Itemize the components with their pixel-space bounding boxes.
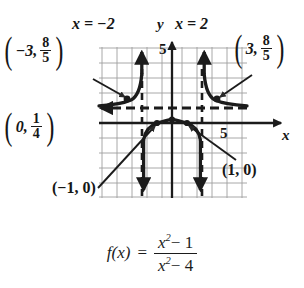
point-x-value: 0, — [15, 119, 29, 135]
formula-equals: = — [130, 243, 154, 263]
point-y-fraction: 1 4 — [29, 112, 44, 142]
point-marker-x-intercept-left — [154, 120, 160, 126]
point-marker-x-intercept-right — [184, 120, 190, 126]
point-x-value: −3, — [15, 43, 39, 59]
function-formula: f(x) = x2− 1 x2− 4 — [0, 232, 304, 274]
formula-numerator: x2− 1 — [154, 232, 197, 253]
paren-close: ) — [46, 112, 54, 142]
paren-close: ) — [56, 36, 64, 66]
point-label-y-intercept: ( 0, 1 4 ) — [2, 112, 56, 142]
point-label-x-intercept-right: (1, 0) — [222, 162, 257, 178]
point-marker-y-intercept — [169, 116, 175, 122]
formula-function-name: f(x) — [107, 243, 131, 263]
paren-open: ( — [4, 112, 12, 142]
paren-open: ( — [234, 34, 242, 64]
point-label-left-branch: ( −3, 8 5 ) — [2, 36, 66, 66]
point-x-value: 3, — [245, 41, 259, 57]
paren-close: ) — [276, 34, 284, 64]
asymptote-label-right: x = 2 — [175, 16, 208, 32]
rational-function-figure: x = −2 x = 2 y x 5 5 ( −3, 8 5 ) ( 3, 8 … — [0, 0, 304, 288]
formula-numerator-base: x — [158, 233, 166, 252]
formula-numerator-rest: − 1 — [171, 233, 193, 252]
formula-denominator-base: x — [158, 255, 166, 274]
point-marker-right-branch — [214, 96, 221, 103]
paren-open: ( — [4, 36, 12, 66]
y-axis-label: y — [157, 17, 164, 32]
asymptote-label-left: x = −2 — [72, 16, 115, 32]
formula-denominator: x2− 4 — [154, 253, 197, 275]
point-y-fraction: 8 5 — [38, 36, 53, 66]
x-axis-label: x — [282, 128, 290, 143]
point-y-fraction: 8 5 — [259, 34, 274, 64]
formula-denominator-rest: − 4 — [171, 255, 193, 274]
x-tick-label-5: 5 — [220, 126, 228, 141]
formula-fraction: x2− 1 x2− 4 — [154, 232, 197, 274]
point-label-x-intercept-left: (−1, 0) — [52, 180, 96, 196]
y-tick-label-5: 5 — [159, 42, 167, 57]
point-label-right-branch: ( 3, 8 5 ) — [232, 34, 286, 64]
